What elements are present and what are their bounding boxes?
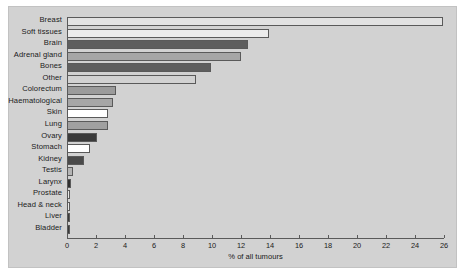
x-tick-label: 16 <box>288 241 310 250</box>
bar <box>67 144 90 153</box>
y-axis-line <box>67 17 68 238</box>
bar-category-label: Lung <box>45 119 62 128</box>
bar-category-label: Soft tissues <box>22 27 62 36</box>
bar-row: Testis <box>9 167 67 176</box>
x-tick-label: 12 <box>230 241 252 250</box>
bar <box>67 63 211 72</box>
x-tick <box>154 235 155 238</box>
x-tick <box>386 235 387 238</box>
bar-category-label: Other <box>43 73 63 82</box>
bar <box>67 156 84 165</box>
bar-row: Soft tissues <box>9 29 67 38</box>
bar <box>67 29 269 38</box>
x-axis-line <box>67 238 444 239</box>
x-tick-label: 20 <box>346 241 368 250</box>
x-tick-label: 24 <box>404 241 426 250</box>
x-tick <box>96 235 97 238</box>
x-tick <box>328 235 329 238</box>
x-tick-label: 8 <box>172 241 194 250</box>
x-tick <box>67 235 68 238</box>
x-tick-label: 10 <box>201 241 223 250</box>
x-tick-label: 14 <box>259 241 281 250</box>
bar <box>67 86 116 95</box>
bar-row: Kidney <box>9 156 67 165</box>
chart-figure: BreastSoft tissuesBrainAdrenal glandBone… <box>8 6 457 268</box>
bar-row: Haematological <box>9 98 67 107</box>
bar-category-label: Head & neck <box>17 200 62 209</box>
x-axis-title: % of all tumours <box>196 252 316 261</box>
bar-row: Ovary <box>9 133 67 142</box>
x-tick-label: 22 <box>375 241 397 250</box>
x-tick <box>212 235 213 238</box>
x-tick-label: 0 <box>56 241 78 250</box>
x-tick-label: 6 <box>143 241 165 250</box>
bar <box>67 121 108 130</box>
x-tick-label: 2 <box>85 241 107 250</box>
bar-category-label: Bones <box>40 61 62 70</box>
bar-row: Bones <box>9 63 67 72</box>
bar <box>67 133 97 142</box>
bar-row: Skin <box>9 109 67 118</box>
bar-row: Liver <box>9 213 67 222</box>
bar-row: Brain <box>9 40 67 49</box>
bar <box>67 75 196 84</box>
bar-category-label: Prostate <box>33 188 62 197</box>
bar-row: Larynx <box>9 179 67 188</box>
x-tick <box>299 235 300 238</box>
bar-category-label: Ovary <box>41 131 62 140</box>
bar-row: Bladder <box>9 225 67 234</box>
bar-row: Colorectum <box>9 86 67 95</box>
bar-category-label: Stomach <box>31 142 62 151</box>
x-tick <box>357 235 358 238</box>
bar-category-label: Colorectum <box>22 84 62 93</box>
bar-category-label: Skin <box>47 107 62 116</box>
bar-row: Breast <box>9 17 67 26</box>
bar <box>67 98 113 107</box>
bar-row: Lung <box>9 121 67 130</box>
x-tick-label: 26 <box>433 241 455 250</box>
bar-category-label: Bladder <box>35 223 62 232</box>
bar-category-label: Haematological <box>8 96 62 105</box>
x-tick <box>125 235 126 238</box>
x-tick <box>241 235 242 238</box>
bar-row: Prostate <box>9 190 67 199</box>
bar-category-label: Adrenal gland <box>14 50 62 59</box>
bar <box>67 109 108 118</box>
x-tick <box>444 235 445 238</box>
bar-category-label: Breast <box>39 15 62 24</box>
bar-category-label: Testis <box>42 165 62 174</box>
plot-area: BreastSoft tissuesBrainAdrenal glandBone… <box>9 7 458 269</box>
bar-category-label: Kidney <box>38 154 62 163</box>
bar <box>67 52 241 61</box>
x-tick <box>270 235 271 238</box>
x-tick-label: 18 <box>317 241 339 250</box>
bar <box>67 40 248 49</box>
bar-category-label: Larynx <box>39 177 62 186</box>
bar-row: Head & neck <box>9 202 67 211</box>
bar-row: Stomach <box>9 144 67 153</box>
bar-row: Adrenal gland <box>9 52 67 61</box>
x-tick-label: 4 <box>114 241 136 250</box>
bar-category-label: Liver <box>45 211 62 220</box>
x-tick <box>183 235 184 238</box>
x-tick <box>415 235 416 238</box>
bar <box>67 17 443 26</box>
bar-category-label: Brain <box>44 38 62 47</box>
bar-row: Other <box>9 75 67 84</box>
